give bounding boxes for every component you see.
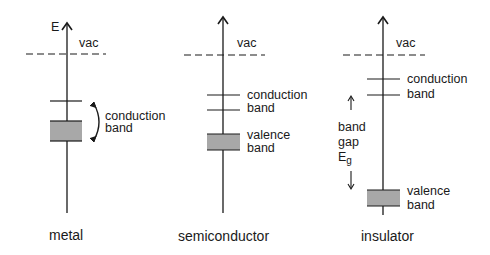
gap-label-line1: band [338, 121, 366, 134]
metal-panel [26, 23, 106, 213]
gap-label-line2: gap [338, 136, 359, 149]
valence-band [207, 134, 240, 150]
panel-title-semiconductor: semiconductor [178, 228, 269, 244]
panel-title-insulator: insulator [361, 228, 414, 244]
vacuum-label: vac [237, 37, 256, 50]
conduction-label-line2: band [247, 102, 275, 115]
valence-label-line2: band [407, 199, 435, 212]
conduction-label-line1: conduction [407, 73, 467, 86]
conduction-label-line2: band [407, 88, 435, 101]
vacuum-label: vac [79, 37, 98, 50]
energy-axis-label: E [51, 21, 59, 34]
filled-band [50, 121, 82, 141]
gap-symbol-subscript: g [346, 155, 352, 166]
valence-label-line1: valence [407, 185, 450, 198]
valence-band [367, 190, 400, 206]
panel-title-metal: metal [49, 227, 83, 243]
curved-double-arrow-icon [94, 104, 99, 140]
valence-label-line2: band [247, 142, 275, 155]
gap-energy-symbol: Eg [338, 151, 352, 167]
vacuum-label: vac [396, 37, 415, 50]
conduction-label-line2: band [105, 122, 133, 135]
